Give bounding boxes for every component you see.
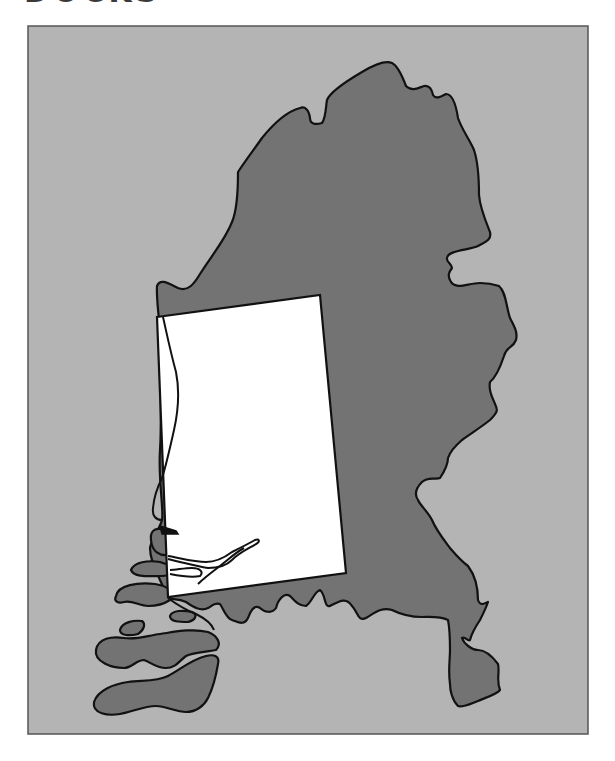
map-figure <box>0 0 615 761</box>
island-schouwen <box>115 583 171 606</box>
study-area-rectangle <box>157 295 346 597</box>
